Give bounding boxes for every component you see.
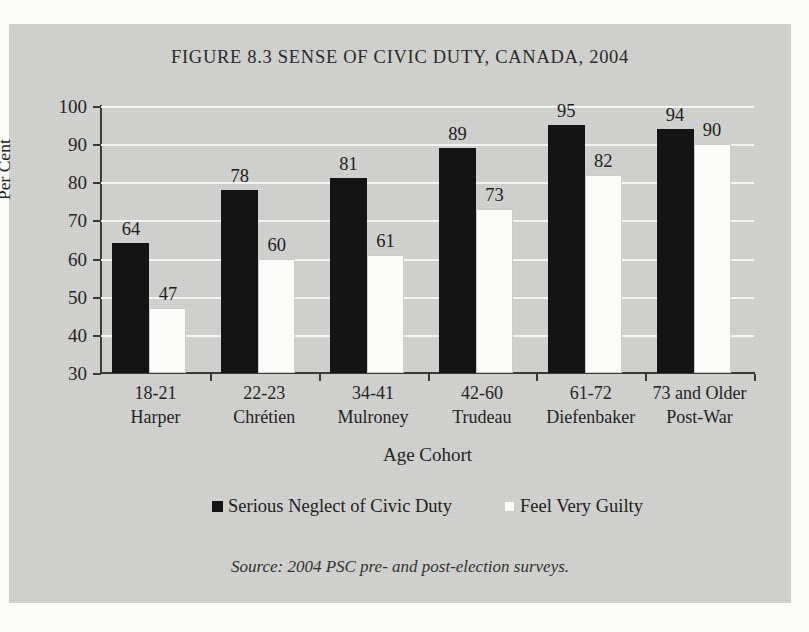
y-axis-tick-label: 100 (41, 97, 87, 116)
plot-area: 644778608161897395829490 (101, 106, 754, 373)
y-axis-tick (93, 106, 101, 108)
bar (112, 243, 149, 373)
legend-label: Serious Neglect of Civic Duty (228, 496, 452, 517)
bar-value-label: 64 (104, 220, 157, 239)
bar (694, 144, 731, 373)
y-axis-tick (93, 182, 101, 184)
y-axis-tick-label: 30 (41, 364, 87, 383)
bar (657, 129, 694, 373)
y-axis-tick-label: 80 (41, 173, 87, 192)
category-age-range: 18-21 (134, 383, 176, 403)
bar (439, 148, 476, 373)
x-axis-tick (536, 374, 538, 381)
y-axis-tick-label: 70 (41, 211, 87, 230)
legend-item[interactable]: Feel Very Guilty (504, 496, 643, 517)
source-note: Source: 2004 PSC pre- and post-election … (10, 557, 790, 577)
bar-value-label: 95 (540, 102, 593, 121)
x-axis-tick (319, 374, 321, 381)
category-age-range: 42-60 (461, 383, 503, 403)
x-axis-tick (210, 374, 212, 381)
y-axis-tick (93, 220, 101, 222)
bar (149, 308, 186, 373)
bar-value-label: 78 (213, 167, 266, 186)
bar-value-label: 90 (686, 121, 739, 140)
bar-value-label: 47 (141, 285, 194, 304)
category-age-range: 73 and Older (653, 383, 747, 403)
y-axis-tick (93, 297, 101, 299)
bar (221, 190, 258, 373)
x-axis-tick (645, 374, 647, 381)
legend-swatch-icon (504, 501, 515, 512)
bar (367, 255, 404, 373)
bar-value-label: 89 (431, 125, 484, 144)
x-axis-title: Age Cohort (101, 444, 754, 466)
legend-item[interactable]: Serious Neglect of Civic Duty (212, 496, 452, 517)
bar-value-label: 81 (322, 155, 375, 174)
category-age-range: 61-72 (570, 383, 612, 403)
bar (330, 178, 367, 373)
y-axis-tick (93, 144, 101, 146)
y-axis-tick (93, 335, 101, 337)
bar-value-label: 60 (250, 236, 303, 255)
category-age-range: 22-23 (243, 383, 285, 403)
x-axis-category-label: 73 and OlderPost-War (635, 382, 764, 430)
chart-legend: Serious Neglect of Civic DutyFeel Very G… (101, 496, 754, 517)
y-axis-tick (93, 259, 101, 261)
page-title: FIGURE 8.3 SENSE OF CIVIC DUTY, CANADA, … (10, 47, 790, 68)
y-axis-tick-label: 90 (41, 135, 87, 154)
x-axis-tick (428, 374, 430, 381)
y-axis-tick-label: 60 (41, 250, 87, 269)
legend-swatch-icon (212, 501, 223, 512)
y-axis-title: Per Cent (0, 139, 15, 200)
x-axis-tick (754, 374, 756, 381)
bar-value-label: 61 (359, 232, 412, 251)
bar-value-label: 82 (577, 152, 630, 171)
bar (585, 175, 622, 373)
legend-label: Feel Very Guilty (520, 496, 643, 517)
category-cohort-name: Post-War (635, 406, 764, 430)
bar-value-label: 73 (468, 186, 521, 205)
y-axis-tick-label: 50 (41, 288, 87, 307)
y-axis-tick-label: 40 (41, 326, 87, 345)
bar (476, 209, 513, 373)
y-axis-tick (93, 373, 101, 375)
bar (258, 259, 295, 373)
category-age-range: 34-41 (352, 383, 394, 403)
